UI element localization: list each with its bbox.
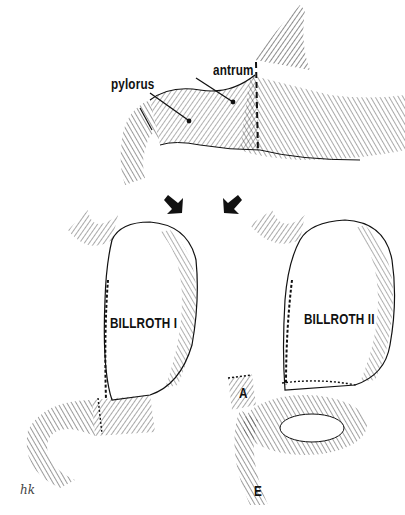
title-billroth-1: BILLROTH I: [110, 314, 177, 331]
label-efferent-limb: E: [254, 482, 262, 499]
arrow-right-icon: [223, 195, 242, 214]
title-billroth-2: BILLROTH II: [304, 310, 375, 327]
label-pylorus: pylorus: [111, 75, 154, 92]
top-stomach: [121, 5, 405, 185]
billroth-diagram: [0, 0, 405, 515]
artist-signature: hk: [20, 483, 35, 497]
label-antrum: antrum: [213, 61, 254, 78]
billroth-1-stomach: [27, 210, 198, 488]
arrow-left-icon: [164, 195, 183, 214]
billroth-2-stomach: [228, 210, 395, 505]
label-afferent-limb: A: [239, 384, 248, 401]
